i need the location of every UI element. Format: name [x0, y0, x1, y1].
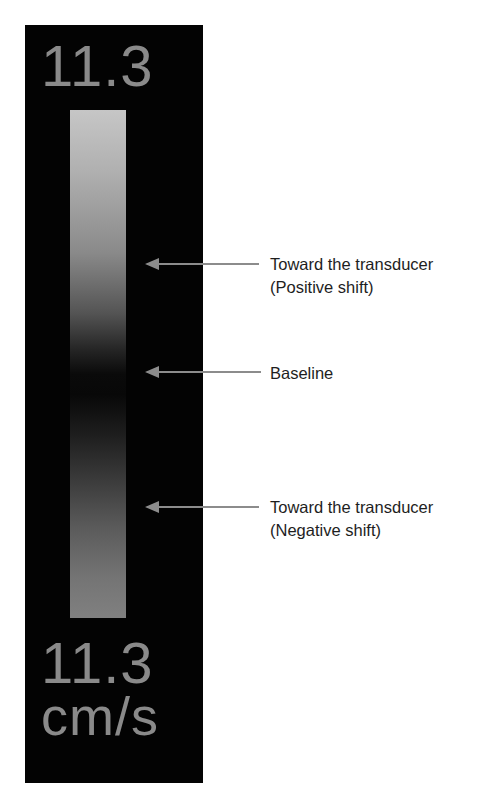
- scale-unit: cm/s: [41, 689, 159, 743]
- annotation-negative-line2: (Negative shift): [270, 519, 433, 542]
- annotation-negative-line1: Toward the transducer: [270, 496, 433, 519]
- velocity-color-bar: [70, 110, 126, 618]
- annotation-baseline: Baseline: [270, 362, 333, 385]
- annotation-positive-line2: (Positive shift): [270, 276, 433, 299]
- arrow-left-icon: [147, 263, 259, 265]
- arrow-left-icon: [147, 506, 259, 508]
- doppler-color-scale-panel: 11.3 11.3 cm/s: [25, 25, 203, 783]
- scale-min-value: 11.3: [41, 634, 154, 692]
- annotation-positive-line1: Toward the transducer: [270, 253, 433, 276]
- annotation-positive-shift: Toward the transducer (Positive shift): [270, 253, 433, 299]
- annotation-negative-shift: Toward the transducer (Negative shift): [270, 496, 433, 542]
- annotation-baseline-label: Baseline: [270, 362, 333, 385]
- arrow-left-icon: [147, 371, 261, 373]
- scale-max-value: 11.3: [41, 37, 154, 95]
